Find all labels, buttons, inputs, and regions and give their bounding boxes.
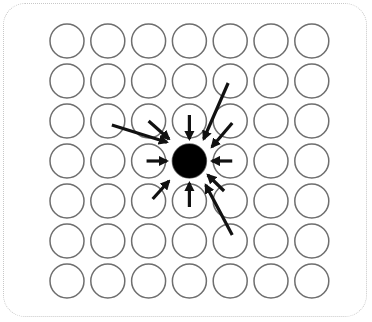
grid-circle: [213, 184, 247, 218]
grid-circle: [132, 64, 166, 98]
grid-attraction-diagram: [0, 0, 372, 322]
grid-circle: [50, 224, 84, 258]
grid-circle: [91, 264, 125, 298]
grid-circle: [254, 24, 288, 58]
grid-circle: [132, 24, 166, 58]
grid-circle: [91, 144, 125, 178]
grid-circle: [172, 24, 206, 58]
grid-circle: [132, 264, 166, 298]
grid-circle: [91, 224, 125, 258]
grid-circle: [50, 24, 84, 58]
grid-circle: [295, 224, 329, 258]
grid-circle: [295, 64, 329, 98]
grid-circle: [50, 104, 84, 138]
grid-circle: [50, 144, 84, 178]
grid-circle: [91, 64, 125, 98]
grid-circle: [254, 184, 288, 218]
grid-circle: [91, 184, 125, 218]
grid-circle: [172, 64, 206, 98]
grid-circle: [295, 144, 329, 178]
grid-circle: [132, 224, 166, 258]
grid-circle: [254, 144, 288, 178]
center-particle-circle: [172, 144, 206, 178]
grid-circle: [295, 24, 329, 58]
grid-circle: [295, 264, 329, 298]
grid-circle: [91, 24, 125, 58]
grid-circle: [254, 64, 288, 98]
arrow-lower-right: [208, 175, 224, 191]
center-particle: [172, 144, 206, 178]
grid-circle: [50, 184, 84, 218]
grid-circle: [295, 184, 329, 218]
grid-circle: [213, 264, 247, 298]
arrow-lower-left: [153, 181, 169, 199]
grid-circle: [91, 104, 125, 138]
grid-circle: [254, 224, 288, 258]
grid-circle: [295, 104, 329, 138]
grid-circle: [50, 264, 84, 298]
grid-circle: [213, 24, 247, 58]
grid-circle: [213, 64, 247, 98]
grid-circle: [254, 264, 288, 298]
grid-circle: [172, 264, 206, 298]
grid-circle: [172, 224, 206, 258]
grid-circle: [254, 104, 288, 138]
grid-circle: [50, 64, 84, 98]
